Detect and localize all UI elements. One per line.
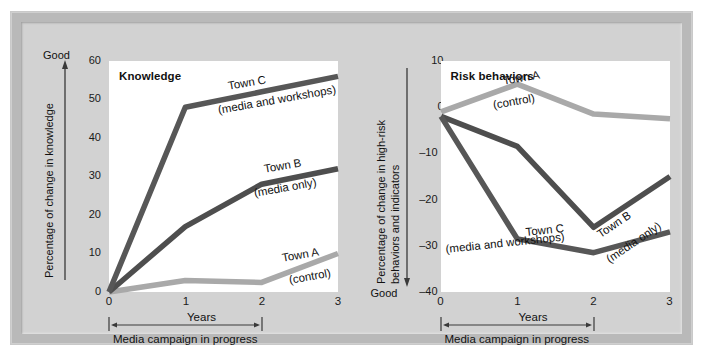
figure-panel: Percentage of change in knowledge Good 6… (21, 22, 682, 334)
figure-frame: Percentage of change in knowledge Good 6… (10, 11, 693, 345)
campaign-label-left: Media campaign in progress (113, 333, 257, 345)
figure-root: Percentage of change in knowledge Good 6… (0, 0, 705, 357)
chart-knowledge: Percentage of change in knowledge Good 6… (21, 22, 352, 334)
campaign-bracket-right (352, 22, 683, 334)
campaign-bracket-left (21, 22, 352, 334)
chart-risk-behaviors: Percentage of change in high-risk behavi… (352, 22, 683, 334)
campaign-label-right: Media campaign in progress (445, 333, 589, 345)
